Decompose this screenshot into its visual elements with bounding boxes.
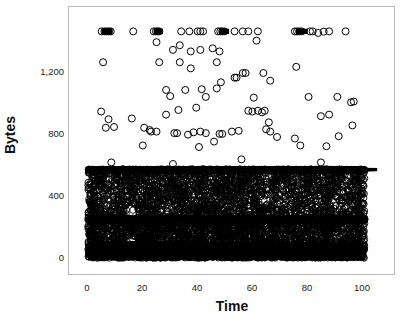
x-tick-label-100: 100	[342, 282, 382, 293]
x-axis-tick-labels: 0 20 40 60 80 100	[0, 282, 411, 298]
x-tick-label-20: 20	[122, 282, 162, 293]
x-tick-label-0: 0	[67, 282, 107, 293]
x-tick-label-40: 40	[177, 282, 217, 293]
x-tick-label-60: 60	[232, 282, 272, 293]
y-axis-tick-labels: 1,200 800 400 0	[8, 0, 64, 325]
x-axis-title: Time	[68, 298, 396, 314]
y-tick-label-0: 0	[16, 252, 64, 263]
scatter-plot-figure: Bytes 1,200 800 400 0 0 20 40 60 80 100 …	[0, 0, 411, 325]
y-tick-label-800: 800	[16, 128, 64, 139]
scatter-points-canvas	[69, 7, 394, 274]
plot-area	[68, 6, 395, 275]
y-tick-label-400: 400	[16, 190, 64, 201]
x-tick-label-80: 80	[287, 282, 327, 293]
y-tick-label-1200: 1,200	[16, 66, 64, 77]
